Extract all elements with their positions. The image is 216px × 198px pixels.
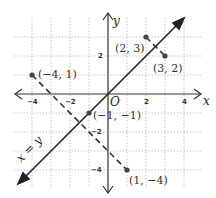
x-axis-label: x bbox=[203, 94, 210, 108]
point-3-2 bbox=[162, 53, 167, 58]
point-neg1-neg1 bbox=[86, 110, 91, 115]
x-tick-label: −2 bbox=[65, 98, 76, 106]
point-label: (3, 2) bbox=[153, 62, 183, 75]
line-label: x = y bbox=[13, 133, 45, 165]
point-label: (2, 3) bbox=[115, 42, 145, 55]
y-tick-label: −4 bbox=[91, 166, 102, 174]
point-label: (−1, −1) bbox=[93, 109, 141, 122]
x-tick-label: 4 bbox=[182, 98, 187, 106]
coordinate-plane: −4 −2 2 4 2 −2 −4 x y O x = y (2, 3) (3,… bbox=[0, 0, 216, 198]
point-neg4-1 bbox=[29, 72, 34, 77]
point-2-3 bbox=[143, 34, 148, 39]
point-label: (1, −4) bbox=[129, 174, 168, 187]
y-axis-label: y bbox=[112, 14, 120, 28]
x-tick-label: 2 bbox=[144, 98, 149, 106]
point-1-neg4 bbox=[124, 167, 129, 172]
origin-label: O bbox=[110, 95, 120, 109]
y-tick-label: 2 bbox=[98, 52, 103, 60]
x-tick-label: −4 bbox=[27, 98, 38, 106]
line-x-equals-y bbox=[18, 18, 184, 184]
point-label: (−4, 1) bbox=[38, 68, 77, 81]
